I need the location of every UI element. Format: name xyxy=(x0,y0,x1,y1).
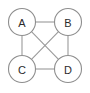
graph-diagram: A B C D xyxy=(0,0,90,93)
node-d[interactable]: D xyxy=(55,56,82,83)
node-b-label: B xyxy=(64,17,71,29)
node-c-label: C xyxy=(18,64,26,76)
node-a[interactable]: A xyxy=(9,9,36,36)
node-c[interactable]: C xyxy=(9,56,36,83)
node-a-label: A xyxy=(18,17,26,29)
node-d-label: D xyxy=(64,64,72,76)
graph-canvas: A B C D xyxy=(0,0,90,93)
node-b[interactable]: B xyxy=(55,9,82,36)
